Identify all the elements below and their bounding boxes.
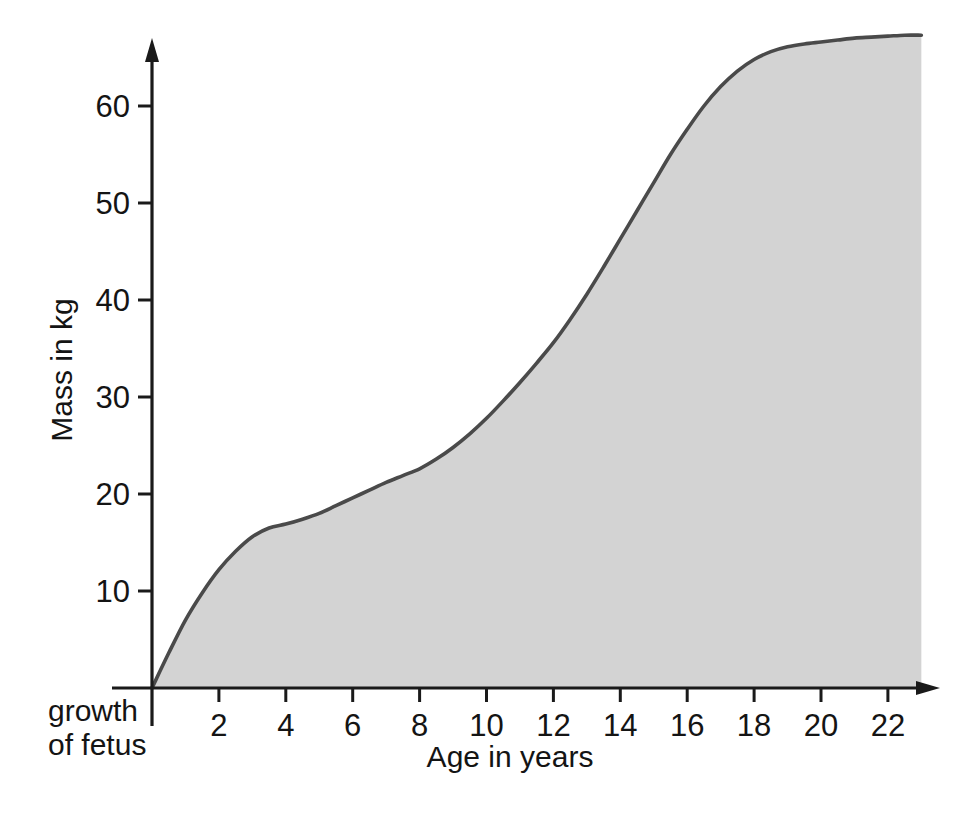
- x-tick-label: 6: [344, 710, 361, 741]
- y-tick-label: 10: [45, 576, 130, 607]
- x-tick-label: 2: [210, 710, 227, 741]
- x-tick-label: 14: [603, 710, 637, 741]
- y-tick-label: 20: [45, 479, 130, 510]
- x-tick-label: 10: [469, 710, 503, 741]
- y-axis: [145, 38, 159, 726]
- x-tick-label: 12: [536, 710, 570, 741]
- growth-chart: 246810121416182022 102030405060 Age in y…: [0, 0, 961, 813]
- x-tick-label: 16: [670, 710, 704, 741]
- x-tick-label: 8: [411, 710, 428, 741]
- y-axis-ticks: [138, 106, 152, 591]
- fetus-note-line-2: of fetus: [48, 728, 146, 762]
- x-tick-label: 22: [871, 710, 905, 741]
- y-tick-label: 50: [45, 188, 130, 219]
- fetus-note-line-1: growth: [48, 694, 146, 728]
- x-tick-label: 20: [804, 710, 838, 741]
- y-axis-title: Mass in kg: [45, 298, 79, 441]
- x-tick-label: 18: [737, 710, 771, 741]
- chart-plot-area: [0, 0, 961, 813]
- growth-of-fetus-annotation: growth of fetus: [48, 694, 146, 762]
- y-tick-label: 60: [45, 91, 130, 122]
- x-tick-label: 4: [277, 710, 294, 741]
- x-axis-ticks: [219, 688, 888, 702]
- x-axis-title: Age in years: [427, 740, 594, 774]
